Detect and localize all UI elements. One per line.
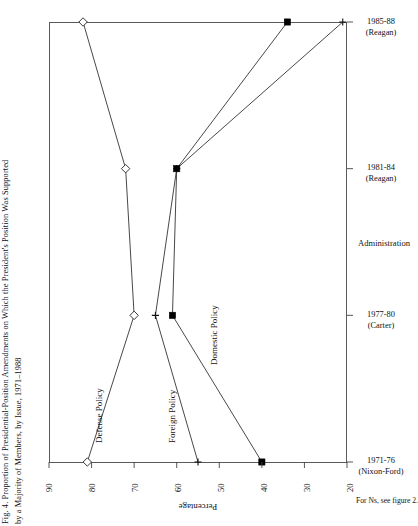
data-point-foreign-policy-0: [194, 458, 201, 465]
ytick-president: (Carter): [355, 320, 407, 331]
ytick-president: (Reagan): [355, 173, 407, 184]
ytick-1971-76: 1971-76 (Nixon-Ford): [352, 455, 410, 477]
series-line-foreign-policy: [155, 22, 342, 462]
data-point-domestic-policy-3: [284, 19, 290, 25]
percentage-axis-title: Percentage: [150, 502, 246, 512]
data-point-defense-policy-1: [130, 311, 138, 319]
data-point-domestic-policy-1: [169, 312, 175, 318]
xtick-4: 50: [216, 466, 228, 492]
data-point-defense-policy-2: [121, 164, 129, 172]
ytick-president: (Reagan): [355, 27, 407, 38]
xtick-3: 60: [173, 466, 185, 492]
series-line-domestic-policy: [172, 22, 287, 462]
ytick-1981-84: 1981-84 (Reagan): [355, 162, 407, 184]
xtick-0: 90: [44, 466, 56, 492]
xtick-2: 70: [130, 466, 142, 492]
xtick-6: 30: [302, 466, 314, 492]
ytick-period: 1981-84: [355, 162, 407, 173]
series-label-domestic: Domestic Policy: [209, 305, 219, 365]
ytick-president: (Nixon-Ford): [352, 466, 410, 477]
administration-axis-title: Administration: [358, 238, 410, 248]
series-line-defense-policy: [83, 22, 134, 462]
series-label-defense: Defense Policy: [94, 388, 104, 443]
ytick-1977-80: 1977-80 (Carter): [355, 309, 407, 331]
figure-footnote: For Ns, see figure 2.: [356, 496, 418, 505]
ytick-period: 1971-76: [352, 455, 410, 466]
data-point-domestic-policy-2: [174, 166, 180, 172]
ytick-period: 1977-80: [355, 309, 407, 320]
series-label-foreign: Foreign Policy: [167, 390, 177, 443]
ytick-period: 1985-88: [355, 16, 407, 27]
ytick-1985-88: 1985-88 (Reagan): [355, 16, 407, 38]
data-point-defense-policy-0: [83, 458, 91, 466]
data-point-foreign-policy-1: [152, 312, 159, 319]
series-paths: [83, 22, 343, 462]
xtick-5: 40: [259, 466, 271, 492]
xtick-1: 80: [87, 466, 99, 492]
data-point-defense-policy-3: [79, 18, 87, 26]
